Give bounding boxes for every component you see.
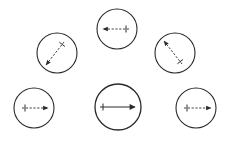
arrow-icon bbox=[164, 41, 182, 64]
circle-lower-right bbox=[176, 88, 216, 128]
circle-upper-left bbox=[37, 33, 77, 73]
arrow-icon bbox=[46, 42, 64, 65]
circle-outline bbox=[37, 33, 77, 73]
circle-outline bbox=[155, 33, 195, 73]
circle-lower-center bbox=[95, 84, 141, 130]
vector-circle-diagram bbox=[0, 0, 230, 141]
circle-top bbox=[97, 9, 137, 49]
circle-lower-left bbox=[14, 88, 54, 128]
tick-mark-icon bbox=[59, 42, 65, 46]
circle-upper-right bbox=[155, 33, 195, 73]
tick-mark-icon bbox=[177, 59, 183, 63]
